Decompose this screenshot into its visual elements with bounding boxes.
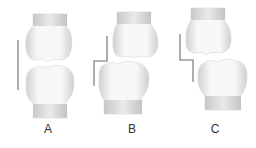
- lower-shaft-b: [104, 100, 142, 114]
- panel-c: [180, 8, 247, 110]
- panel-a: [18, 14, 74, 118]
- upper-shaft-a: [33, 14, 67, 26]
- lower-shaft-c: [205, 96, 241, 110]
- label-b: B: [128, 122, 136, 136]
- upper-shaft-b: [117, 12, 151, 24]
- label-c: C: [211, 122, 220, 136]
- panel-b: [94, 12, 158, 114]
- label-a: A: [44, 122, 52, 136]
- lower-shaft-a: [33, 104, 67, 118]
- upper-shaft-c: [191, 8, 225, 20]
